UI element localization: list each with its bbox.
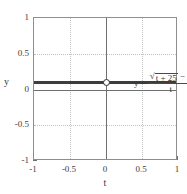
equation-left-hand-side: y = (134, 79, 146, 88)
function-equation-annotation: y = √ t + 25 − 5 t (134, 72, 187, 94)
y-tick-label: -0.5 (0, 120, 29, 129)
open-circle-discontinuity-marker (103, 79, 110, 86)
x-tick-label: -0.5 (62, 165, 76, 174)
x-tick-mark (177, 156, 178, 160)
x-tick-label: 1 (175, 165, 180, 174)
plot-area: y = √ t + 25 − 5 t (33, 17, 177, 160)
y-tick-label: 0 (0, 84, 29, 93)
equation-fraction: √ t + 25 − 5 t (148, 72, 187, 94)
x-tick-label: 0 (103, 165, 108, 174)
limit-function-chart: y t 10.50-0.5-1 -1-0.500.51 y = √ t + 25 (0, 0, 187, 194)
y-tick-label: 1 (0, 13, 29, 22)
x-axis-title: t (104, 177, 107, 188)
y-tick-label: -1 (0, 156, 29, 165)
equation-numerator-suffix: − 5 (180, 72, 187, 81)
y-tick-label: 0.5 (0, 48, 29, 57)
equation-radicand: t + 25 (155, 73, 178, 83)
y-tick-mark (33, 160, 37, 161)
x-tick-label: 0.5 (135, 165, 146, 174)
axis-line-vertical-zero (106, 18, 107, 159)
gridline-vertical-neg-half (70, 18, 71, 159)
equation-numerator: √ t + 25 − 5 (148, 72, 187, 84)
square-root-icon: √ t + 25 (150, 72, 178, 83)
gridline-horizontal-pos-half (34, 54, 176, 55)
gridline-horizontal-neg-half (34, 125, 176, 126)
equation-denominator: t (170, 84, 173, 94)
x-tick-label: -1 (29, 165, 37, 174)
